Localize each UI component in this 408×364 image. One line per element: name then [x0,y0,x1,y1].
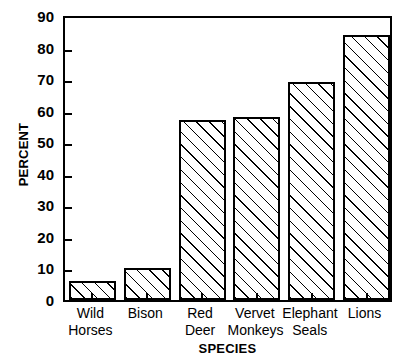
y-tick-label: 60 [26,104,54,119]
bar [288,82,335,300]
y-tick-mark [65,176,72,178]
bar [343,35,390,300]
x-tick-label-line1: Bison [128,305,163,321]
x-tick-label: RedDeer [173,305,228,339]
x-tick-label: ElephantSeals [282,305,337,339]
x-tick-label-line1: Wild [77,305,104,321]
x-tick-label: WildHorses [63,305,118,339]
y-tick-label: 30 [26,198,54,213]
x-tick-label-line1: Vervet [235,305,275,321]
x-tick-label: Bison [118,305,173,322]
x-tick-label-line1: Lions [348,305,381,321]
plot-inner [65,18,390,300]
y-tick-mark [65,207,72,209]
x-tick-label-line2: Deer [173,322,228,339]
y-tick-label: 10 [26,261,54,276]
x-tick-label-line2: Seals [282,322,337,339]
y-tick-mark [65,113,72,115]
y-axis-tick-labels: 0102030405060708090 [22,0,54,364]
bar [233,117,280,300]
x-axis-title: SPECIES [63,341,392,356]
bar [179,120,226,300]
x-tick-mark [311,293,313,300]
x-tick-mark [366,293,368,300]
y-tick-label: 80 [26,41,54,56]
y-tick-label: 0 [26,293,54,308]
plot-area [63,16,392,302]
bar-chart: PERCENT 0102030405060708090 WildHorsesBi… [0,0,408,364]
y-tick-label: 50 [26,135,54,150]
x-tick-label-line2: Horses [63,322,118,339]
y-tick-label: 40 [26,167,54,182]
y-tick-mark [65,81,72,83]
x-tick-label: Lions [337,305,392,322]
x-tick-mark [146,293,148,300]
y-tick-mark [65,50,72,52]
x-tick-label-line2: Monkeys [228,322,283,339]
y-tick-label: 20 [26,230,54,245]
x-tick-mark [256,293,258,300]
x-tick-label-line1: Red [187,305,213,321]
y-tick-mark [65,239,72,241]
y-tick-mark [65,144,72,146]
x-axis-tick-labels: WildHorsesBisonRedDeerVervetMonkeysEleph… [63,305,392,345]
y-tick-mark [65,270,72,272]
x-tick-label: VervetMonkeys [228,305,283,339]
x-tick-mark [201,293,203,300]
x-tick-mark [91,293,93,300]
y-tick-label: 70 [26,72,54,87]
y-tick-label: 90 [26,9,54,24]
x-tick-label-line1: Elephant [282,305,337,321]
